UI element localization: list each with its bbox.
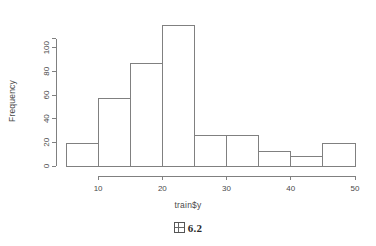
x-tick-label: 10 xyxy=(94,184,103,193)
y-tick-label: 60 xyxy=(42,90,51,99)
histogram-bar xyxy=(194,135,226,166)
y-axis-label: Frequency xyxy=(7,71,17,131)
tick-labels: 0204060801001020304050 xyxy=(42,40,360,193)
x-axis-label: train$y xyxy=(0,200,376,210)
y-tick-label: 80 xyxy=(42,66,51,75)
histogram-bars xyxy=(66,25,355,166)
y-tick-label: 0 xyxy=(42,163,51,168)
y-tick-label: 20 xyxy=(42,137,51,146)
y-tick-label: 40 xyxy=(42,114,51,123)
histogram-bar xyxy=(227,135,259,166)
histogram-bar xyxy=(259,152,291,166)
x-tick-label: 50 xyxy=(351,184,360,193)
histogram-bar xyxy=(130,63,162,166)
x-tick-label: 20 xyxy=(158,184,167,193)
y-tick-label: 100 xyxy=(42,40,51,54)
figure-number: 6.2 xyxy=(188,222,203,234)
histogram-bar xyxy=(291,157,323,166)
x-tick-label: 40 xyxy=(286,184,295,193)
histogram-bar xyxy=(66,144,98,166)
histogram-bar xyxy=(98,99,130,166)
histogram-bar xyxy=(323,144,355,166)
figure-caption: 6.2 xyxy=(0,222,376,234)
missing-glyph-icon xyxy=(174,222,185,233)
x-tick-label: 30 xyxy=(222,184,231,193)
histogram-bar xyxy=(162,25,194,166)
